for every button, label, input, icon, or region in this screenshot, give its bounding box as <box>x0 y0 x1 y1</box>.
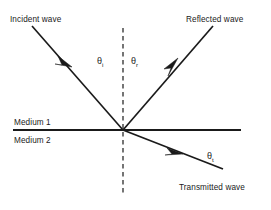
angle-transmission-subscript: t <box>212 156 214 163</box>
transmitted-wave-label: Transmitted wave <box>179 183 245 192</box>
wave-reflection-refraction-diagram: Incident wave Reflected wave θi θr θt Me… <box>0 0 271 210</box>
angle-reflection-subscript: r <box>136 61 138 68</box>
incident-ray-line <box>32 26 123 130</box>
diagram-canvas: Incident wave Reflected wave θi θr θt Me… <box>0 0 271 210</box>
transmitted-ray-line <box>123 130 223 169</box>
incident-wave-label: Incident wave <box>10 15 62 24</box>
reflected-wave-label: Reflected wave <box>186 15 244 24</box>
angle-transmission-label: θt <box>207 151 214 163</box>
angle-reflection-label: θr <box>131 56 138 68</box>
medium-1-label: Medium 1 <box>14 118 51 127</box>
medium-2-label: Medium 2 <box>14 136 51 145</box>
angle-incidence-label: θi <box>97 56 103 68</box>
incident-ray-arrowhead <box>55 56 72 67</box>
reflected-ray-line <box>123 26 213 130</box>
angle-incidence-subscript: i <box>102 61 103 68</box>
